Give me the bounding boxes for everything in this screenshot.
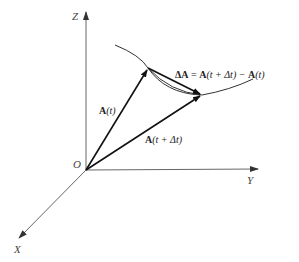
- vector-a-t: [86, 70, 147, 170]
- a-t-arg: (t): [106, 105, 115, 116]
- a-t-dt-arg: (t + Δt): [152, 134, 182, 145]
- z-axis-label: Z: [72, 11, 78, 22]
- y-axis-label: Y: [247, 175, 253, 186]
- x-axis: [19, 170, 86, 238]
- vector-diagram: [0, 0, 299, 262]
- origin-label: O: [73, 159, 81, 170]
- equals-sign: =: [189, 69, 200, 80]
- y-axis: [86, 169, 258, 170]
- delta-a-equation: ΔA = A(t + Δt) − A(t): [175, 70, 265, 80]
- x-axis-label: X: [14, 244, 21, 255]
- vector-a-t-label: A(t): [99, 106, 116, 116]
- vector-a-t-dt-label: A(t + Δt): [145, 135, 182, 145]
- delta-a-bold: ΔA: [175, 69, 189, 80]
- a-t-dt-arg: (t + Δt) −: [206, 69, 248, 80]
- a-t-arg: (t): [255, 69, 264, 80]
